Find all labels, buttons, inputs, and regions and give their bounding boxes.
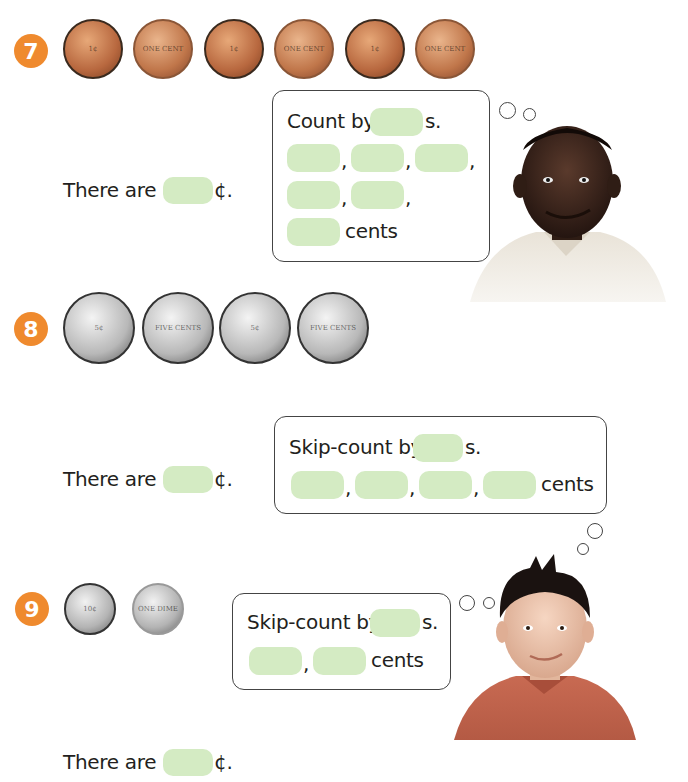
thought-bubble: Skip-count by s. , cents	[232, 593, 451, 690]
skip-count-by-answer-box[interactable]	[413, 434, 463, 462]
comma: ,	[303, 652, 309, 676]
comma: ,	[405, 186, 411, 210]
count-by-label: Count by	[287, 109, 375, 133]
penny-heads-coin: 1¢	[63, 19, 123, 79]
problem-number-badge: 8	[14, 312, 48, 346]
dime-tails-coin: ONE DIME	[132, 583, 184, 635]
skip-count-answer-box-2[interactable]	[313, 647, 366, 675]
penny-heads-coin: 1¢	[204, 19, 264, 79]
thought-bubble-tail-circle	[523, 108, 536, 121]
penny-tails-coin: ONE CENT	[274, 19, 334, 79]
cent-symbol: ¢.	[214, 178, 232, 202]
comma: ,	[405, 149, 411, 173]
there-are-label: There are	[63, 178, 156, 202]
cents-label: cents	[541, 472, 594, 496]
comma: ,	[409, 476, 415, 500]
boy-smiling-photo	[466, 124, 670, 302]
nickel-heads-coin: 5¢	[219, 292, 291, 364]
skip-count-by-label: Skip-count by	[289, 435, 422, 459]
skip-count-answer-box-2[interactable]	[355, 471, 408, 499]
count-answer-box-4[interactable]	[287, 181, 340, 209]
thought-bubble-tail-circle	[499, 102, 516, 119]
total-cents-answer-box[interactable]	[163, 749, 213, 776]
count-answer-box-1[interactable]	[287, 144, 340, 172]
problem-number-badge: 9	[15, 592, 49, 626]
comma: ,	[473, 476, 479, 500]
there-are-label: There are	[63, 467, 156, 491]
skip-count-by-answer-box[interactable]	[370, 609, 420, 637]
total-cents-answer-box[interactable]	[163, 466, 213, 493]
total-cents-answer-box[interactable]	[163, 177, 213, 204]
count-by-answer-box[interactable]	[370, 108, 423, 136]
count-answer-box-2[interactable]	[351, 144, 404, 172]
thought-bubble: Skip-count by s. , , , cents	[274, 416, 607, 514]
skip-count-answer-box-1[interactable]	[249, 647, 302, 675]
count-answer-box-5[interactable]	[351, 181, 404, 209]
cent-symbol: ¢.	[214, 750, 232, 774]
nickel-tails-coin: FIVE CENTS	[297, 292, 369, 364]
thought-bubble: Count by s. , , , , , cents	[272, 90, 490, 262]
there-are-label: There are	[63, 750, 156, 774]
nickel-heads-coin: 5¢	[63, 292, 135, 364]
skip-count-suffix: s.	[465, 435, 481, 459]
penny-heads-coin: 1¢	[345, 19, 405, 79]
thought-bubble-tail-circle	[587, 523, 603, 539]
skip-count-answer-box-3[interactable]	[419, 471, 472, 499]
cents-label: cents	[345, 219, 398, 243]
count-by-suffix: s.	[425, 109, 441, 133]
count-answer-box-6[interactable]	[287, 218, 340, 246]
skip-count-suffix: s.	[422, 610, 438, 634]
cent-symbol: ¢.	[214, 467, 232, 491]
skip-count-answer-box-4[interactable]	[483, 471, 536, 499]
comma: ,	[345, 476, 351, 500]
boy-spiky-hair-photo	[450, 548, 640, 740]
problem-number-badge: 7	[14, 34, 48, 68]
count-answer-box-3[interactable]	[415, 144, 468, 172]
comma: ,	[341, 186, 347, 210]
skip-count-answer-box-1[interactable]	[291, 471, 344, 499]
comma: ,	[341, 149, 347, 173]
nickel-tails-coin: FIVE CENTS	[142, 292, 214, 364]
skip-count-by-label: Skip-count by	[247, 610, 380, 634]
cents-label: cents	[371, 648, 424, 672]
penny-tails-coin: ONE CENT	[133, 19, 193, 79]
penny-tails-coin: ONE CENT	[415, 19, 475, 79]
dime-heads-coin: 10¢	[64, 583, 116, 635]
